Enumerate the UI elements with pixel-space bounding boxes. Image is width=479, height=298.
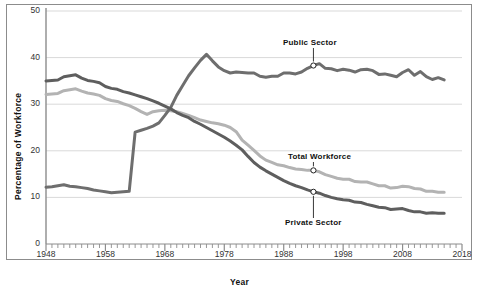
y-axis-tick-label: 20	[18, 145, 40, 155]
gridlines-group	[46, 11, 462, 197]
x-axis-tick-label: 1998	[323, 249, 363, 259]
x-axis-tick-label: 1978	[204, 249, 244, 259]
annotation-marker	[311, 168, 316, 173]
annotation-label-total-workforce: Total Workforce	[288, 152, 351, 161]
annotation-marker	[311, 189, 316, 194]
annotation-markers-group	[311, 48, 316, 218]
y-axis-tick-label: 40	[18, 52, 40, 62]
x-axis-tick-label: 2008	[383, 249, 423, 259]
x-axis-tick-label: 1958	[85, 249, 125, 259]
data-series-group	[46, 54, 444, 213]
annotation-label-private-sector: Private Sector	[285, 218, 342, 227]
x-axis-tick-label: 1968	[145, 249, 185, 259]
y-axis-tick-label: 30	[18, 98, 40, 108]
y-axis-tick-label: 50	[18, 5, 40, 15]
x-axis-tick-label: 1948	[26, 249, 66, 259]
chart-container: Percentage of Workforce Year 01020304050…	[0, 0, 479, 298]
x-axis-minor-ticks	[52, 244, 456, 248]
x-axis-title: Year	[0, 277, 479, 287]
x-axis-tick-label: 1988	[264, 249, 304, 259]
y-axis-tick-label: 10	[18, 191, 40, 201]
y-axis-tick-label: 0	[18, 238, 40, 248]
annotation-label-public-sector: Public Sector	[283, 38, 337, 47]
annotation-marker	[311, 63, 316, 68]
x-axis-tick-label: 2018	[442, 249, 479, 259]
series-line-public-sector	[46, 54, 444, 192]
